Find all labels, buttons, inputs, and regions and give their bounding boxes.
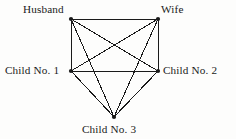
family-network-diagram: Husband Wife Child No. 1 Child No. 2 Chi… — [0, 0, 236, 139]
edge-child1-child3 — [71, 71, 114, 117]
node-label-child-no-3: Child No. 3 — [82, 123, 136, 135]
node-dot-wife — [156, 17, 160, 21]
node-label-husband: Husband — [23, 3, 64, 15]
node-dot-child1 — [69, 69, 73, 73]
edge-wife-child3 — [114, 19, 158, 117]
node-label-child-no-1: Child No. 1 — [5, 64, 59, 76]
edge-child2-child3 — [114, 71, 158, 117]
node-dot-husband — [69, 17, 73, 21]
node-label-wife: Wife — [161, 3, 184, 15]
nodes-group — [69, 17, 160, 119]
node-label-child-no-2: Child No. 2 — [163, 64, 217, 76]
node-dot-child3 — [112, 115, 116, 119]
node-dot-child2 — [156, 69, 160, 73]
edges-group — [71, 19, 158, 117]
edge-husband-child3 — [71, 19, 114, 117]
